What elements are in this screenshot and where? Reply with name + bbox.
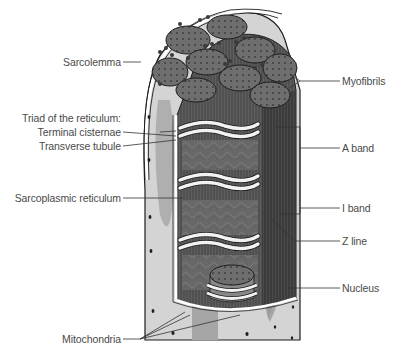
label-terminal-cisternae: Terminal cisternae [0, 126, 121, 138]
label-sarcoplasmic-reticulum: Sarcoplasmic reticulum [0, 192, 121, 204]
label-i-band: I band [342, 202, 371, 214]
label-z-line: Z line [342, 235, 367, 247]
label-a-band: A band [342, 142, 374, 154]
label-mitochondria: Mitochondria [0, 333, 121, 345]
label-sarcolemma: Sarcolemma [0, 56, 121, 68]
muscle-fiber-illustration [0, 0, 401, 355]
label-triad-of-reticulum: Triad of the reticulum: [22, 112, 121, 124]
lower-myofibril [207, 265, 257, 302]
muscle-fiber-diagram: Sarcolemma Triad of the reticulum: Termi… [0, 0, 401, 355]
label-myofibrils: Myofibrils [342, 75, 385, 87]
label-nucleus: Nucleus [342, 282, 379, 294]
label-transverse-tubule: Transverse tubule [0, 140, 121, 152]
